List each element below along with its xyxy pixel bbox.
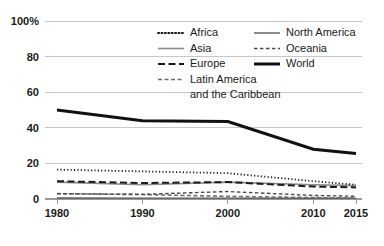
chart-legend: AfricaAsiaEuropeLatin Americaand the Car… [158, 26, 357, 100]
legend-item[interactable]: Europe [158, 57, 225, 69]
legend-label: North America [286, 26, 357, 38]
legend-label: Europe [190, 57, 225, 69]
chart-canvas: 020406080100% 19801990200020102015 Afric… [0, 0, 384, 246]
line-chart: 020406080100% 19801990200020102015 Afric… [0, 0, 384, 246]
y-axis-tick-label: 40 [27, 122, 39, 134]
legend-label: World [286, 57, 315, 69]
legend-item[interactable]: World [254, 57, 315, 69]
x-axis-tick-label: 2015 [344, 207, 368, 219]
x-axis-tick-label: 1990 [130, 207, 154, 219]
y-axis-tick-label: 60 [27, 86, 39, 98]
series-line-world [57, 110, 356, 154]
legend-label: Africa [190, 26, 219, 38]
x-axis [57, 199, 356, 204]
x-axis-tick-labels: 19801990200020102015 [45, 207, 368, 219]
legend-label: Asia [190, 42, 212, 54]
legend-item[interactable]: Africa [158, 26, 219, 38]
y-axis-tick-label: 20 [27, 157, 39, 169]
y-axis-tick-labels: 020406080100% [11, 15, 39, 205]
legend-label: and the Caribbean [190, 88, 281, 100]
x-axis-tick-label: 2000 [216, 207, 240, 219]
y-axis-tick-label: 80 [27, 51, 39, 63]
x-axis-tick-label: 2010 [301, 207, 325, 219]
data-series-group [57, 110, 356, 198]
x-axis-tick-label: 1980 [45, 207, 69, 219]
legend-item[interactable]: Latin America [158, 73, 258, 85]
y-axis-tick-label: 100% [11, 15, 39, 27]
y-axis-tick-label: 0 [33, 193, 39, 205]
legend-item[interactable]: North America [254, 26, 357, 38]
legend-label: Latin America [190, 73, 258, 85]
legend-item[interactable]: and the Caribbean [190, 88, 281, 100]
legend-label: Oceania [286, 42, 328, 54]
legend-item[interactable]: Asia [158, 42, 212, 54]
legend-item[interactable]: Oceania [254, 42, 328, 54]
